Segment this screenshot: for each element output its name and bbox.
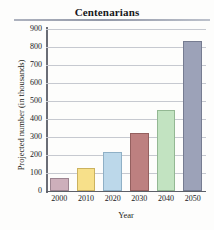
x-tick-label: 2030: [126, 194, 153, 203]
y-tick-label: 600: [14, 79, 42, 87]
x-tick-label: 2050: [179, 194, 206, 203]
x-tick-label: 2040: [153, 194, 180, 203]
plot-area: [46, 29, 206, 191]
y-tick-label: 800: [14, 43, 42, 51]
gridline-600: [46, 83, 206, 84]
bar-2000: [50, 178, 69, 191]
x-axis-tick-labels: 200020102020203020402050: [46, 194, 206, 206]
x-tick-label: 2010: [73, 194, 100, 203]
y-tick-label: 400: [14, 115, 42, 123]
y-axis-tick-labels: 9008007006005004003002001000: [12, 0, 42, 230]
y-tick-label: 900: [14, 25, 42, 33]
gridline-400: [46, 119, 206, 120]
y-tick-label: 300: [14, 133, 42, 141]
x-tick-label: 2020: [99, 194, 126, 203]
gridline-100: [46, 173, 206, 174]
chart-figure: Centenarians Projected number (in thousa…: [0, 0, 214, 230]
chart-title: Centenarians: [75, 6, 140, 18]
gridline-0: [46, 191, 206, 192]
y-tick-label: 500: [14, 97, 42, 105]
y-tick-label: 100: [14, 169, 42, 177]
bar-2010: [77, 168, 96, 191]
gridline-300: [46, 137, 206, 138]
gridline-200: [46, 155, 206, 156]
y-tick-label: 200: [14, 151, 42, 159]
x-tick-label: 2000: [46, 194, 73, 203]
bar-2020: [103, 152, 122, 191]
gridline-800: [46, 47, 206, 48]
gridline-900: [46, 29, 206, 30]
title-divider: [14, 19, 210, 21]
bar-2050: [183, 41, 202, 191]
y-tick-label: 700: [14, 61, 42, 69]
y-tick-label: 0: [14, 187, 42, 195]
x-axis-label: Year: [46, 210, 206, 220]
bar-2030: [130, 133, 149, 192]
gridline-500: [46, 101, 206, 102]
gridline-700: [46, 65, 206, 66]
bar-2040: [157, 110, 176, 191]
